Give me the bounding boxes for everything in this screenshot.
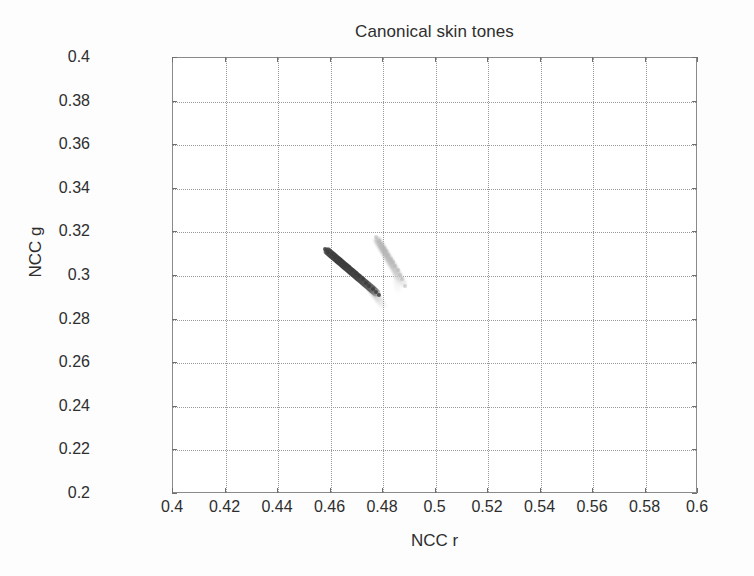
gridline-horizontal xyxy=(173,407,696,408)
gridline-vertical xyxy=(226,58,227,492)
gridline-horizontal xyxy=(173,232,696,233)
x-tick-label: 0.52 xyxy=(471,498,502,516)
x-axis-tick xyxy=(487,488,488,493)
gridline-horizontal xyxy=(173,320,696,321)
y-axis-tick xyxy=(172,188,177,189)
figure-canvas: Canonical skin tones 0.40.420.440.460.48… xyxy=(0,0,754,576)
x-axis-tick xyxy=(225,57,226,62)
y-axis-tick xyxy=(692,101,697,102)
y-axis-tick xyxy=(692,362,697,363)
x-axis-tick xyxy=(540,488,541,493)
x-axis-tick xyxy=(225,488,226,493)
gridline-vertical xyxy=(278,58,279,492)
gridline-horizontal xyxy=(173,276,696,277)
gridline-horizontal xyxy=(173,102,696,103)
gridline-vertical xyxy=(593,58,594,492)
x-axis-tick xyxy=(540,57,541,62)
gridline-vertical xyxy=(488,58,489,492)
y-axis-tick xyxy=(692,275,697,276)
data-point xyxy=(377,293,381,297)
gridline-horizontal xyxy=(173,450,696,451)
x-axis-tick xyxy=(487,57,488,62)
x-tick-label: 0.46 xyxy=(314,498,345,516)
x-axis-tick xyxy=(277,57,278,62)
data-point xyxy=(398,273,402,277)
gridline-vertical xyxy=(383,58,384,492)
x-axis-tick xyxy=(592,57,593,62)
y-tick-label: 0.26 xyxy=(59,353,90,371)
y-axis-tick xyxy=(172,57,177,58)
y-tick-label: 0.38 xyxy=(59,92,90,110)
x-tick-label: 0.5 xyxy=(423,498,445,516)
x-axis-tick xyxy=(645,57,646,62)
x-tick-label: 0.4 xyxy=(161,498,183,516)
gridline-horizontal xyxy=(173,189,696,190)
gridline-vertical xyxy=(646,58,647,492)
y-axis-tick xyxy=(172,362,177,363)
x-axis-tick xyxy=(697,57,698,62)
x-tick-label: 0.6 xyxy=(686,498,708,516)
y-axis-tick xyxy=(172,275,177,276)
x-axis-tick xyxy=(435,57,436,62)
x-tick-label: 0.48 xyxy=(366,498,397,516)
gridline-horizontal xyxy=(173,363,696,364)
y-axis-label: NCC g xyxy=(26,172,46,332)
x-tick-label: 0.56 xyxy=(576,498,607,516)
y-axis-tick xyxy=(692,57,697,58)
plot-area xyxy=(172,57,697,493)
x-tick-label: 0.54 xyxy=(524,498,555,516)
y-tick-label: 0.28 xyxy=(59,310,90,328)
y-tick-label: 0.4 xyxy=(68,48,90,66)
y-axis-tick xyxy=(692,144,697,145)
gridline-horizontal xyxy=(173,145,696,146)
x-axis-tick xyxy=(592,488,593,493)
x-axis-label: NCC r xyxy=(172,531,697,551)
x-axis-tick xyxy=(330,57,331,62)
y-tick-label: 0.36 xyxy=(59,135,90,153)
x-axis-tick xyxy=(330,488,331,493)
x-tick-label: 0.42 xyxy=(209,498,240,516)
y-tick-label: 0.34 xyxy=(59,179,90,197)
y-axis-tick xyxy=(172,144,177,145)
x-axis-tick xyxy=(382,57,383,62)
x-axis-tick xyxy=(382,488,383,493)
x-axis-tick xyxy=(645,488,646,493)
y-axis-tick xyxy=(692,449,697,450)
y-tick-label: 0.22 xyxy=(59,440,90,458)
x-axis-tick xyxy=(435,488,436,493)
y-axis-tick xyxy=(692,406,697,407)
gridline-vertical xyxy=(436,58,437,492)
x-tick-label: 0.44 xyxy=(261,498,292,516)
y-axis-tick xyxy=(172,406,177,407)
gridline-vertical xyxy=(331,58,332,492)
x-axis-tick xyxy=(697,488,698,493)
y-tick-label: 0.32 xyxy=(59,222,90,240)
y-axis-tick xyxy=(172,231,177,232)
y-tick-label: 0.24 xyxy=(59,397,90,415)
x-axis-tick xyxy=(277,488,278,493)
chart-title: Canonical skin tones xyxy=(172,22,697,42)
y-tick-label: 0.3 xyxy=(68,266,90,284)
y-axis-tick xyxy=(692,231,697,232)
y-axis-tick xyxy=(692,319,697,320)
y-axis-tick xyxy=(172,493,177,494)
gridline-vertical xyxy=(541,58,542,492)
y-axis-tick xyxy=(692,493,697,494)
y-axis-tick xyxy=(172,449,177,450)
x-tick-label: 0.58 xyxy=(629,498,660,516)
y-axis-tick xyxy=(172,319,177,320)
y-tick-label: 0.2 xyxy=(68,484,90,502)
y-axis-tick xyxy=(692,188,697,189)
y-axis-tick xyxy=(172,101,177,102)
data-point xyxy=(403,284,407,288)
